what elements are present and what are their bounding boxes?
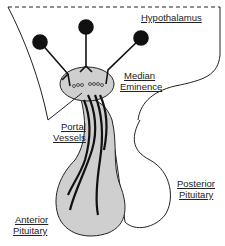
label-median-eminence: Median Eminence <box>120 70 162 92</box>
label-posterior-pituitary: Posterior Pituitary <box>177 178 215 200</box>
label-portal-text: Portal <box>48 121 86 132</box>
label-eminence-text: Eminence <box>120 81 162 92</box>
label-median-text: Median <box>120 70 162 81</box>
stalk-boundary <box>48 93 82 120</box>
anterior-pituitary-shape <box>56 95 125 236</box>
median-eminence-shape <box>60 67 114 101</box>
label-posterior-pituitary-text: Pituitary <box>177 189 215 200</box>
label-posterior-text: Posterior <box>177 178 215 189</box>
label-anterior-pituitary-text: Pituitary <box>13 225 48 236</box>
label-hypothalamus-text: Hypothalamus <box>141 12 202 23</box>
label-anterior-pituitary: Anterior Pituitary <box>13 214 48 236</box>
label-hypothalamus: Hypothalamus <box>141 12 202 23</box>
label-anterior-text: Anterior <box>13 214 48 225</box>
label-portal-vessels: Portal Vessels <box>48 121 86 143</box>
label-vessels-text: Vessels <box>48 132 86 143</box>
pituitary-diagram <box>0 0 225 246</box>
